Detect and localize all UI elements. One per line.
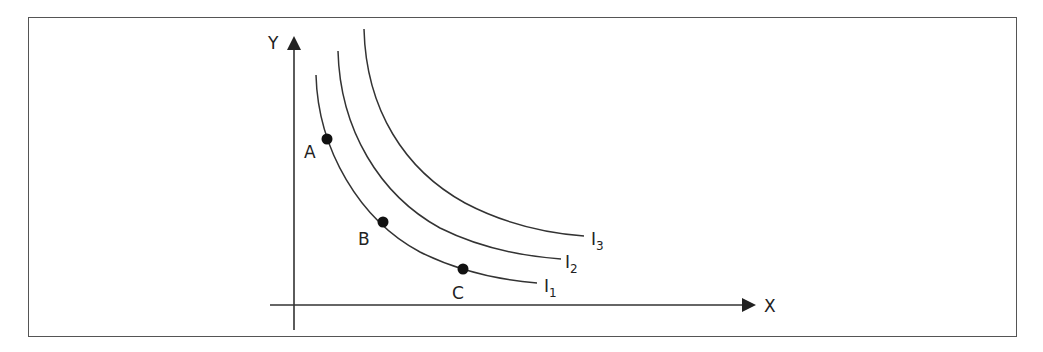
indifference-curve-diagram: Y X I1 I2 I3 A B C bbox=[0, 0, 1043, 352]
point-b: B bbox=[358, 217, 389, 250]
x-axis-label: X bbox=[764, 296, 776, 316]
point-c: C bbox=[452, 264, 469, 304]
curve-i3-label: I3 bbox=[591, 229, 604, 253]
curve-i1: I1 bbox=[316, 75, 557, 300]
x-axis: X bbox=[270, 296, 776, 316]
point-a: A bbox=[304, 134, 333, 163]
curve-i1-label: I1 bbox=[544, 276, 557, 300]
y-axis-label: Y bbox=[267, 33, 279, 53]
point-b-label: B bbox=[358, 229, 370, 249]
curve-i3: I3 bbox=[364, 29, 604, 253]
y-axis-arrow-icon bbox=[287, 36, 301, 50]
point-b-marker bbox=[378, 217, 389, 228]
point-a-label: A bbox=[304, 142, 316, 162]
point-c-label: C bbox=[452, 283, 464, 303]
curve-i2: I2 bbox=[338, 51, 578, 276]
point-c-marker bbox=[458, 264, 469, 275]
y-axis: Y bbox=[267, 33, 301, 330]
curve-i2-label: I2 bbox=[565, 252, 578, 276]
point-a-marker bbox=[322, 134, 333, 145]
x-axis-arrow-icon bbox=[742, 298, 756, 312]
